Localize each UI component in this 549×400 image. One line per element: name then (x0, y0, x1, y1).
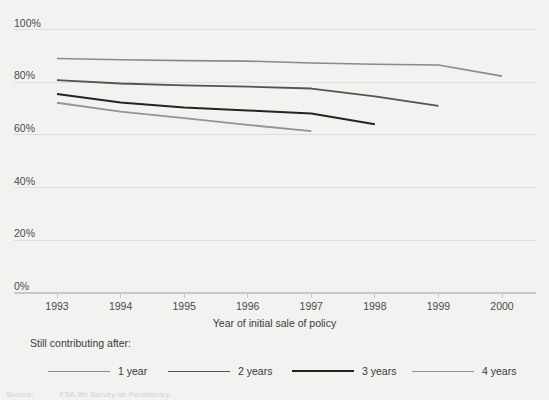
y-tick-label-0: 0% (14, 280, 29, 292)
source-note: Source:FSA 9th Survey on Persistency (6, 390, 170, 399)
legend-label-1-year: 1 year (118, 365, 147, 377)
series-line-1-year (57, 58, 502, 76)
legend-swatch-1-year (48, 371, 110, 372)
x-tick-label-1995: 1995 (172, 300, 195, 312)
source-label: Source: (6, 390, 34, 399)
chart-legend: 1 year2 years3 years4 years (30, 363, 519, 379)
x-tick-label-2000: 2000 (490, 300, 513, 312)
legend-swatch-4-years (412, 371, 474, 372)
x-tick-label-1996: 1996 (236, 300, 259, 312)
legend-label-2-years: 2 years (238, 365, 272, 377)
legend-item-2-years[interactable]: 2 years (168, 363, 272, 379)
x-tick-label-1997: 1997 (300, 300, 323, 312)
x-tick-label-1998: 1998 (363, 300, 386, 312)
legend-swatch-3-years (292, 370, 354, 372)
legend-title: Still contributing after: (30, 337, 131, 349)
y-tick-label-20: 20% (14, 227, 35, 239)
x-axis-title: Year of initial sale of policy (213, 317, 336, 329)
legend-item-4-years[interactable]: 4 years (412, 363, 516, 379)
y-tick-label-40: 40% (14, 175, 35, 187)
x-tick-label-1999: 1999 (427, 300, 450, 312)
y-tick-label-80: 80% (14, 69, 35, 81)
source-text: FSA 9th Survey on Persistency (60, 390, 170, 399)
y-tick-label-60: 60% (14, 122, 35, 134)
legend-item-3-years[interactable]: 3 years (292, 363, 396, 379)
persistency-line-chart: 0%20%40%60%80%100% 199319941995199619971… (0, 0, 549, 400)
legend-swatch-2-years (168, 371, 230, 372)
legend-label-4-years: 4 years (482, 365, 516, 377)
x-tick-label-1993: 1993 (45, 300, 68, 312)
x-tick-label-1994: 1994 (109, 300, 132, 312)
legend-label-3-years: 3 years (362, 365, 396, 377)
y-tick-label-100: 100% (14, 17, 41, 29)
legend-item-1-year[interactable]: 1 year (48, 363, 147, 379)
